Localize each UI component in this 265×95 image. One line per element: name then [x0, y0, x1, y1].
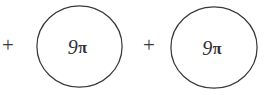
circled-term-1: 9π: [36, 5, 123, 88]
math-expression-canvas: + 9π + 9π: [0, 0, 265, 95]
pi-symbol-2: π: [213, 41, 222, 57]
term-label-1: 9π: [36, 5, 123, 88]
plus-icon-leading: +: [0, 35, 16, 56]
term-coefficient-1: 9: [68, 37, 78, 57]
term-coefficient-2: 9: [202, 38, 212, 58]
term-label-2: 9π: [170, 6, 258, 89]
plus-icon-middle: +: [141, 35, 157, 56]
pi-symbol-1: π: [78, 40, 87, 56]
circled-term-2: 9π: [170, 6, 258, 89]
